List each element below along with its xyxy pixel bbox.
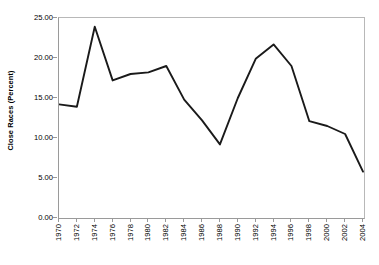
x-tick-label-text: 1976 bbox=[107, 224, 116, 241]
x-tick-label-text: 1998 bbox=[304, 224, 313, 241]
y-tick-mark bbox=[53, 177, 57, 178]
x-tick-mark bbox=[58, 218, 59, 222]
y-tick-mark bbox=[53, 57, 57, 58]
x-tick-mark bbox=[273, 218, 274, 222]
x-tick-label: 2002 bbox=[339, 224, 349, 258]
x-tick-label: 1974 bbox=[89, 224, 99, 258]
x-tick-mark bbox=[308, 218, 309, 222]
x-tick-mark bbox=[219, 218, 220, 222]
x-tick-label: 1978 bbox=[125, 224, 135, 258]
x-tick-label: 1994 bbox=[268, 224, 278, 258]
x-tick-mark bbox=[147, 218, 148, 222]
x-tick-label: 1990 bbox=[232, 224, 242, 258]
x-tick-label: 1972 bbox=[71, 224, 81, 258]
x-tick-label: 1976 bbox=[107, 224, 117, 258]
x-tick-mark bbox=[76, 218, 77, 222]
x-tick-label: 1970 bbox=[53, 224, 63, 258]
y-tick-mark bbox=[53, 97, 57, 98]
y-tick-label: 5.00 bbox=[38, 173, 53, 182]
x-tick-label: 2004 bbox=[357, 224, 367, 258]
x-tick-mark bbox=[326, 218, 327, 222]
x-tick-label-text: 1992 bbox=[250, 224, 259, 241]
x-tick-label-text: 1970 bbox=[54, 224, 63, 241]
y-tick-label: 25.00 bbox=[34, 13, 53, 22]
y-tick-label: 0.00 bbox=[38, 213, 53, 222]
y-axis-title-label: Close Races (Percent) bbox=[6, 70, 15, 150]
x-tick-label: 1992 bbox=[250, 224, 260, 258]
x-tick-label: 1986 bbox=[196, 224, 206, 258]
x-tick-mark bbox=[183, 218, 184, 222]
x-tick-label: 2000 bbox=[321, 224, 331, 258]
x-tick-label-text: 1988 bbox=[214, 224, 223, 241]
x-tick-label-text: 2002 bbox=[340, 224, 349, 241]
y-tick-label: 15.00 bbox=[34, 93, 53, 102]
y-tick-mark bbox=[53, 217, 57, 218]
x-tick-mark bbox=[362, 218, 363, 222]
y-tick-mark bbox=[53, 17, 57, 18]
x-tick-label-text: 1994 bbox=[268, 224, 277, 241]
x-tick-mark bbox=[237, 218, 238, 222]
y-tick-label: 10.00 bbox=[34, 133, 53, 142]
y-axis-tick-labels: 0.005.0010.0015.0020.0025.00 bbox=[18, 0, 56, 225]
x-tick-label-text: 1984 bbox=[179, 224, 188, 241]
x-tick-label-text: 1978 bbox=[125, 224, 134, 241]
x-tick-mark bbox=[112, 218, 113, 222]
x-tick-mark bbox=[255, 218, 256, 222]
y-axis-title: Close Races (Percent) bbox=[0, 0, 20, 220]
x-tick-label-text: 1990 bbox=[232, 224, 241, 241]
x-tick-mark bbox=[344, 218, 345, 222]
plot-area bbox=[58, 17, 365, 219]
x-tick-label-text: 1974 bbox=[89, 224, 98, 241]
close-races-line-series bbox=[59, 27, 363, 172]
y-tick-mark bbox=[53, 137, 57, 138]
x-tick-label: 1980 bbox=[142, 224, 152, 258]
x-tick-mark bbox=[165, 218, 166, 222]
x-tick-label-text: 2004 bbox=[358, 224, 367, 241]
x-tick-label: 1988 bbox=[214, 224, 224, 258]
x-tick-label-text: 1982 bbox=[161, 224, 170, 241]
x-tick-mark bbox=[201, 218, 202, 222]
x-tick-mark bbox=[290, 218, 291, 222]
x-tick-label: 1996 bbox=[285, 224, 295, 258]
x-tick-mark bbox=[130, 218, 131, 222]
data-line-svg bbox=[59, 18, 364, 218]
x-tick-mark bbox=[94, 218, 95, 222]
x-tick-label-text: 1972 bbox=[71, 224, 80, 241]
x-tick-label: 1998 bbox=[303, 224, 313, 258]
x-tick-label: 1984 bbox=[178, 224, 188, 258]
y-tick-label: 20.00 bbox=[34, 53, 53, 62]
line-chart: Close Races (Percent) 0.005.0010.0015.00… bbox=[0, 0, 379, 265]
x-tick-label-text: 1996 bbox=[286, 224, 295, 241]
x-tick-label-text: 2000 bbox=[322, 224, 331, 241]
x-tick-label-text: 1980 bbox=[143, 224, 152, 241]
x-tick-label-text: 1986 bbox=[197, 224, 206, 241]
x-tick-label: 1982 bbox=[160, 224, 170, 258]
